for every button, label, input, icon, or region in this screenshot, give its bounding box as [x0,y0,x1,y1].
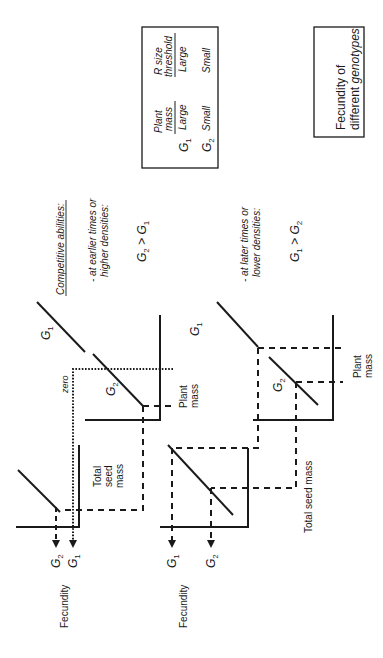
row-g1-r-size: Large [177,46,188,72]
r-size-header-2: threshold [163,35,174,77]
competitive-abilities: Competitive abilities: - at earlier time… [55,198,304,296]
upper-g2-label: G2 [104,382,120,396]
upper-total-seed-mass-1: Total [92,466,103,487]
competitive-heading: Competitive abilities: [55,203,66,295]
upper-arrow-g1: G1 [66,554,82,568]
svg-text:different genotypes: different genotypes [348,28,362,130]
upper-fecundity-label: Fecundity [59,585,70,628]
lower-plant-mass-2: mass [363,354,374,378]
upper-total-seed-mass-2: seed [103,465,114,487]
case2-relation: G1 > G2 [288,220,304,262]
row-g1-plant-mass: Large [177,104,188,130]
title-line1: Fecundity of [334,64,348,130]
lower-fecundity-label: Fecundity [178,585,189,628]
upper-plant-mass-2: mass [189,384,200,408]
lower-g2-label: G2 [271,378,287,392]
lower-g1-label: G1 [188,322,204,336]
lower-arrow-g2: G2 [204,554,220,568]
row-g2-r-size: Small [201,47,212,73]
upper-arrow-g2: G2 [49,554,65,568]
fecundity-diagram: Fecundity of different genotypes Plant m… [0,0,383,658]
row-g2-genotype: G2 [200,138,216,152]
svg-text:Fecundity of: Fecundity of [334,64,348,130]
case1-line2: higher densities: [99,204,110,277]
upper-plant-mass-1: Plant [178,385,189,408]
plant-mass-header-2: mass [163,107,174,131]
upper-total-seed-mass-3: mass [114,464,125,488]
row-g1-genotype: G1 [177,138,193,152]
title-line2-italic: genotypes [348,28,362,83]
lower-arrow-g1: G1 [165,554,181,568]
upper-g1-label: G1 [39,326,55,340]
case1-line1: - at earlier times or [87,198,98,282]
row-g2-plant-mass: Small [201,105,212,131]
genotype-table: Plant mass R size threshold G1 Large Lar… [142,27,218,168]
zero-label: zero [60,375,70,394]
title-line2-prefix: different [348,84,362,130]
case2-line2: lower densities: [251,208,262,277]
lower-diagram [160,302,343,548]
title-box: Fecundity of different genotypes [314,27,364,137]
lower-total-seed-mass: Total seed mass [303,461,314,533]
case1-relation: G2 > G1 [135,220,151,262]
lower-plant-mass-1: Plant [352,355,363,378]
case2-line1: - at later times or [239,206,250,282]
